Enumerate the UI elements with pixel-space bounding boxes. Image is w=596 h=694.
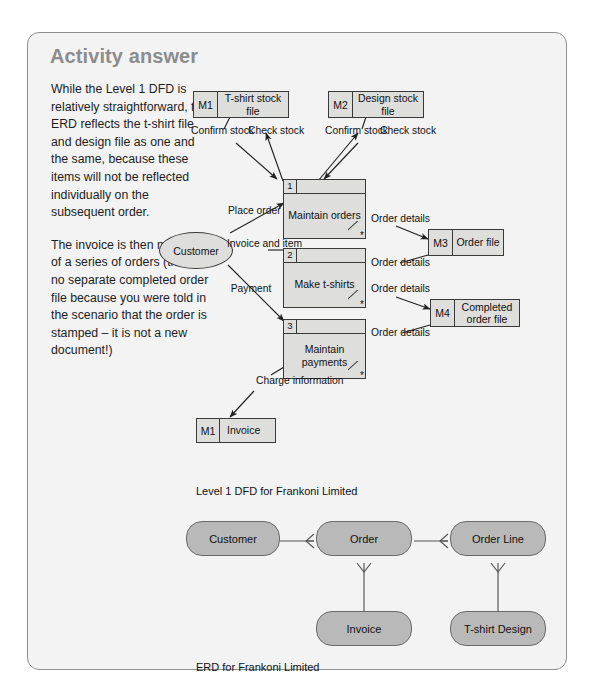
erd-caption: ERD for Frankoni Limited [196,661,320,673]
erd-entity-label: Invoice [347,623,382,635]
erd-entity-order-line: Order Line [450,521,546,556]
erd-entity-order: Order [316,521,412,556]
erd-entity-label: Order [350,533,378,545]
erd-entity-invoice: Invoice [316,611,412,646]
activity-answer-panel: Activity answer While the Level 1 DFD is… [27,32,567,670]
erd-entity-tshirt-design: T-shirt Design [450,611,546,646]
erd-entity-label: T-shirt Design [464,623,532,635]
erd-entity-label: Order Line [472,533,524,545]
erd-connectors [28,33,568,671]
erd-entity-label: Customer [209,533,257,545]
erd-entity-customer: Customer [186,521,280,556]
